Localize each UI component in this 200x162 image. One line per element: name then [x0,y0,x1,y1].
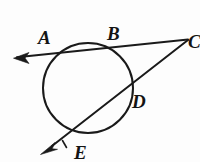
main-circle [43,43,133,133]
label-point-a: A [37,27,51,48]
label-point-e: E [73,142,87,162]
geometry-figure: A B C D E [0,0,200,162]
arrow-left-icon [14,53,30,64]
e-tick-mark-icon [63,141,67,148]
label-point-b: B [106,23,120,44]
label-point-d: D [131,91,146,112]
label-point-c: C [188,31,200,52]
geometry-canvas: A B C D E [0,0,200,162]
